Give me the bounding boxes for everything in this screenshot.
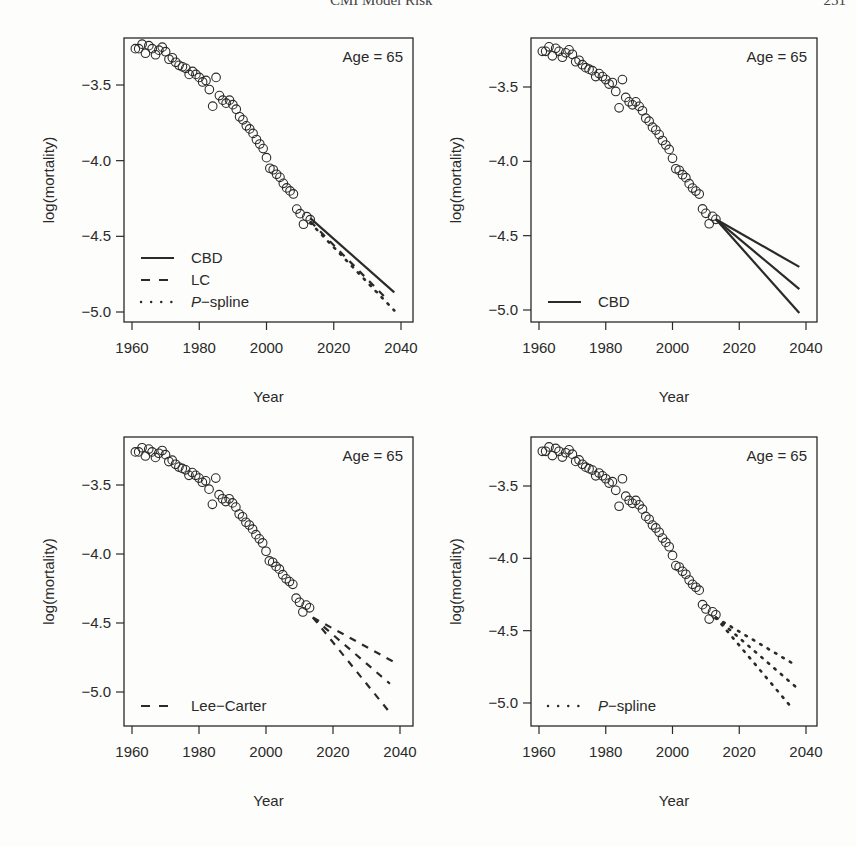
legend: P−spline — [548, 697, 656, 714]
x-tick-label: 1960 — [522, 743, 555, 760]
data-point — [615, 502, 624, 511]
data-point — [208, 500, 217, 509]
age-annotation: Age = 65 — [747, 48, 807, 65]
y-tick-label: −4.0 — [488, 152, 518, 169]
y-tick-label: −3.5 — [81, 76, 111, 93]
legend-label: Lee−Carter — [191, 697, 266, 714]
forecast-line-p-spline-central — [716, 618, 796, 687]
legend: Lee−Carter — [141, 697, 266, 714]
y-axis: −3.5−4.0−4.5−5.0 — [81, 76, 124, 320]
x-tick-label: 2000 — [249, 743, 282, 760]
x-tick-label: 2040 — [384, 339, 417, 356]
panel-bottom-left: 19601980200020202040−3.5−4.0−4.5−5.0Year… — [40, 437, 417, 809]
x-tick-label: 2000 — [656, 339, 689, 356]
data-point — [618, 75, 627, 84]
legend: CBD — [548, 293, 630, 310]
x-axis-label: Year — [253, 792, 283, 809]
plot-frame — [124, 437, 413, 726]
data-point — [205, 485, 214, 494]
legend-label: CBD — [191, 249, 223, 266]
y-tick-label: −4.0 — [81, 545, 111, 562]
observed-points — [131, 40, 314, 229]
observed-points — [538, 43, 720, 229]
data-point — [205, 85, 214, 94]
forecast-line-lc-lower — [313, 617, 390, 712]
y-tick-label: −3.5 — [488, 78, 518, 95]
age-annotation: Age = 65 — [343, 447, 403, 464]
data-point — [211, 474, 220, 483]
y-tick-label: −4.5 — [81, 227, 111, 244]
forecast-line-p-spline-upper — [716, 618, 796, 666]
x-tick-label: 1960 — [115, 743, 148, 760]
x-tick-label: 1980 — [589, 743, 622, 760]
forecast-line-cbd-upper — [716, 219, 799, 267]
forecast-line-cbd-lower — [716, 219, 799, 313]
data-point — [668, 551, 677, 560]
y-tick-label: −5.0 — [81, 303, 111, 320]
panel-bottom-right: 19601980200020202040−3.5−4.0−4.5−5.0Year… — [447, 437, 823, 809]
y-tick-label: −4.0 — [81, 152, 111, 169]
y-tick-label: −5.0 — [488, 694, 518, 711]
x-tick-label: 2020 — [723, 339, 756, 356]
x-tick-label: 2020 — [723, 743, 756, 760]
y-tick-label: −4.5 — [488, 622, 518, 639]
x-tick-label: 2040 — [789, 339, 822, 356]
forecast-line-p-spline — [310, 223, 394, 311]
x-tick-label: 2040 — [383, 743, 416, 760]
observed-points — [538, 443, 720, 624]
legend-label: P−spline — [598, 697, 656, 714]
x-axis: 19601980200020202040 — [522, 726, 822, 760]
legend-label: P−spline — [191, 293, 249, 310]
x-axis-label: Year — [659, 792, 689, 809]
data-point — [208, 102, 217, 111]
y-tick-label: −3.5 — [488, 477, 518, 494]
x-axis: 19601980200020202040 — [522, 322, 822, 356]
x-axis: 19601980200020202040 — [115, 322, 417, 356]
x-tick-label: 1980 — [182, 743, 215, 760]
y-axis: −3.5−4.0−4.5−5.0 — [488, 78, 531, 318]
age-annotation: Age = 65 — [343, 48, 403, 65]
x-tick-label: 2020 — [317, 339, 350, 356]
age-annotation: Age = 65 — [747, 447, 807, 464]
data-point — [668, 154, 677, 163]
y-tick-label: −5.0 — [81, 683, 111, 700]
x-tick-label: 1960 — [522, 339, 555, 356]
panel-top-right: 19601980200020202040−3.5−4.0−4.5−5.0Year… — [447, 38, 823, 405]
y-tick-label: −5.0 — [488, 301, 518, 318]
legend: CBDLCP−spline — [141, 249, 249, 310]
forecast-line-cbd — [310, 218, 394, 292]
y-axis: −3.5−4.0−4.5−5.0 — [488, 477, 531, 711]
y-tick-label: −4.0 — [488, 549, 518, 566]
forecast-line-p-spline-lower — [716, 618, 793, 709]
y-axis-label: log(mortality) — [447, 137, 464, 224]
y-tick-label: −3.5 — [81, 476, 111, 493]
x-tick-label: 1980 — [589, 339, 622, 356]
figure-four-panels: 19601980200020202040−3.5−4.0−4.5−5.0Year… — [0, 0, 856, 847]
x-axis-label: Year — [253, 388, 283, 405]
data-point — [615, 104, 624, 113]
forecast-line-lc-central — [313, 617, 390, 683]
forecast-line-lc-upper — [313, 617, 393, 661]
plot-frame — [531, 437, 817, 726]
observed-points — [131, 443, 314, 616]
legend-label: LC — [191, 271, 210, 288]
plot-frame — [531, 38, 817, 322]
x-tick-label: 2040 — [789, 743, 822, 760]
y-axis-label: log(mortality) — [447, 538, 464, 625]
data-point — [212, 73, 221, 82]
panel-top-left: 19601980200020202040−3.5−4.0−4.5−5.0Year… — [40, 38, 418, 405]
x-axis-label: Year — [659, 388, 689, 405]
data-point — [262, 547, 271, 556]
x-tick-label: 1960 — [115, 339, 148, 356]
data-point — [611, 486, 620, 495]
x-tick-label: 2020 — [316, 743, 349, 760]
x-axis: 19601980200020202040 — [115, 726, 416, 760]
data-point — [618, 474, 627, 483]
forecast-line-lc — [310, 221, 387, 300]
x-tick-label: 2000 — [656, 743, 689, 760]
y-axis-label: log(mortality) — [40, 137, 57, 224]
data-point — [611, 87, 620, 96]
data-point — [262, 153, 271, 162]
y-axis: −3.5−4.0−4.5−5.0 — [81, 476, 124, 700]
y-tick-label: −4.5 — [488, 227, 518, 244]
